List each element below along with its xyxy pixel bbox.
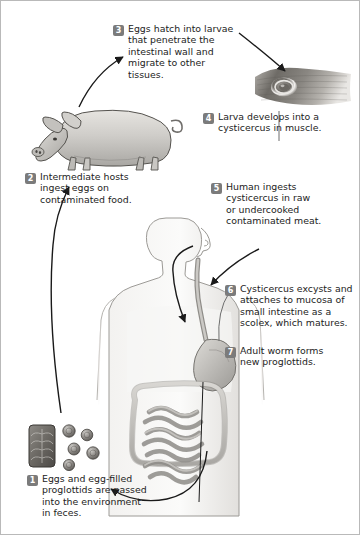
step-4-caption: 4 Larva develops into a cysticercus in m…: [203, 111, 353, 134]
step-3-text: Eggs hatch into larvae that penetrate th…: [128, 23, 233, 80]
step-1-text: Eggs and egg-filled proglottids are pass…: [42, 473, 147, 519]
step-4-text: Larva develops into a cysticercus in mus…: [218, 111, 321, 134]
step-4-badge: 4: [203, 113, 214, 124]
step-7-text: Adult worm forms new proglottids.: [240, 345, 323, 368]
step-2-text: Intermediate hosts ingest eggs on contam…: [40, 171, 132, 205]
arrow-meat-to-mouth: [211, 249, 259, 285]
step-6-text: Cysticercus excysts and attaches to muco…: [240, 283, 353, 329]
step-2-caption: 2 Intermediate hosts ingest eggs on cont…: [25, 171, 175, 205]
step-2-badge: 2: [25, 173, 36, 184]
step-7-badge: 7: [225, 347, 236, 358]
step-1-badge: 1: [27, 475, 38, 486]
taenia-life-cycle-figure: 3 Eggs hatch into larvae that penetrate …: [0, 0, 360, 535]
step-6-badge: 6: [225, 285, 236, 296]
arrow-larvae-to-muscle: [239, 33, 285, 71]
step-3-caption: 3 Eggs hatch into larvae that penetrate …: [113, 23, 235, 80]
step-7-caption: 7 Adult worm forms new proglottids.: [225, 345, 355, 368]
arrow-eggs-to-pig: [51, 187, 69, 413]
step-5-caption: 5 Human ingests cysticercus in raw or un…: [211, 181, 353, 227]
step-5-text: Human ingests cysticercus in raw or unde…: [226, 181, 321, 227]
step-5-badge: 5: [211, 183, 222, 194]
arrow-swallow: [173, 246, 193, 322]
step-1-caption: 1 Eggs and egg-filled proglottids are pa…: [27, 473, 177, 519]
flow-arrows: [1, 1, 360, 535]
step-3-badge: 3: [113, 25, 124, 36]
step-6-caption: 6 Cysticercus excysts and attaches to mu…: [225, 283, 357, 329]
